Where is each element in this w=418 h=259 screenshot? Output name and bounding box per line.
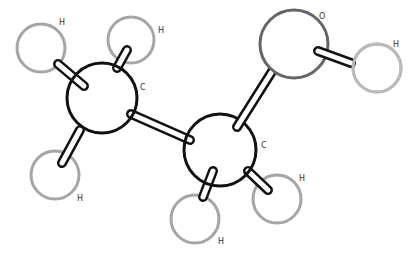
- label-h4: H: [218, 237, 224, 246]
- atom-o: [260, 10, 328, 78]
- bond-c2-o: [237, 62, 278, 127]
- label-h3: H: [77, 194, 83, 203]
- bond-c2-h5: [248, 171, 268, 190]
- atom-h2: [108, 17, 154, 63]
- label-h5: H: [299, 174, 305, 183]
- atom-h3: [31, 151, 79, 199]
- atom-c2: [184, 114, 256, 186]
- label-c1: C: [140, 83, 146, 92]
- label-h2: H: [158, 26, 164, 35]
- atom-c1: [67, 63, 137, 133]
- bond-c1-c2: [131, 114, 190, 140]
- ethanol-molecule-svg: C C O H H H H H H: [0, 0, 418, 259]
- atom-h4: [171, 195, 219, 243]
- label-h6: H: [393, 40, 399, 49]
- label-c2: C: [261, 141, 267, 150]
- label-o: O: [319, 12, 325, 21]
- molecule-diagram: C C O H H H H H H: [0, 0, 418, 259]
- label-h1: H: [59, 18, 65, 27]
